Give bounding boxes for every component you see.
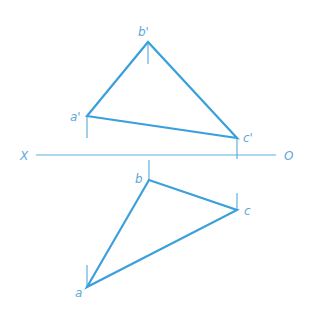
point-label-b: b — [135, 172, 143, 186]
axis-label-x: X — [19, 149, 29, 163]
point-label-b-prime: b' — [138, 25, 149, 39]
top-view-triangle — [87, 180, 237, 287]
front-view-triangle — [87, 42, 237, 138]
point-label-a: a — [75, 286, 82, 300]
point-label-c: c — [244, 204, 251, 218]
axis-label-o: O — [284, 149, 293, 163]
projection-diagram: X O b' a' c' b c a — [0, 0, 312, 313]
point-label-a-prime: a' — [70, 110, 81, 124]
point-label-c-prime: c' — [243, 131, 253, 145]
diagram-canvas: X O b' a' c' b c a — [0, 0, 312, 313]
